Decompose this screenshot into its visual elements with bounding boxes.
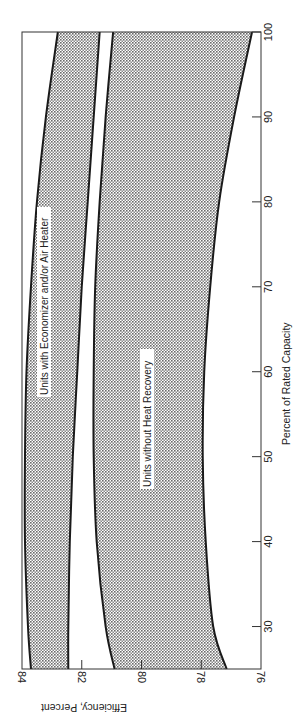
x-tick-label: 30 bbox=[262, 620, 274, 632]
x-tick-label: 70 bbox=[262, 281, 274, 293]
band-label-upper: Units with Economizer and/or Air Heater bbox=[39, 217, 50, 395]
x-axis-ticks: 30405060708090100 bbox=[252, 23, 274, 633]
x-tick-label: 90 bbox=[262, 111, 274, 123]
band-label-upper-group: Units with Economizer and/or Air Heater bbox=[37, 207, 51, 397]
y-tick-label: 76 bbox=[255, 671, 267, 683]
y-tick-label: 82 bbox=[76, 671, 88, 683]
x-tick-label: 60 bbox=[262, 366, 274, 378]
x-tick-label: 50 bbox=[262, 451, 274, 463]
band-label-lower-group: Units without Heat Recovery bbox=[140, 349, 154, 489]
y-tick-label: 84 bbox=[16, 671, 28, 683]
band-label-lower: Units without Heat Recovery bbox=[142, 361, 153, 487]
x-tick-label: 100 bbox=[262, 23, 274, 41]
x-tick-label: 80 bbox=[262, 196, 274, 208]
bands bbox=[25, 32, 252, 669]
band-fill-no-heat-recovery bbox=[93, 32, 252, 669]
y-axis-title: Efficiency, Percent bbox=[41, 702, 127, 714]
y-tick-label: 80 bbox=[136, 671, 148, 683]
x-tick-label: 40 bbox=[262, 535, 274, 547]
efficiency-chart: 30405060708090100 8482807876 Units with … bbox=[0, 0, 305, 728]
x-axis-title: Percent of Rated Capacity bbox=[280, 322, 292, 445]
band-fill-economizer bbox=[25, 32, 100, 669]
y-tick-label: 78 bbox=[195, 671, 207, 683]
